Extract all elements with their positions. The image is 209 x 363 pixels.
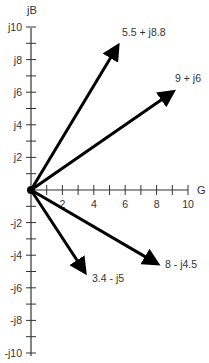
x-tick-label: 8	[154, 198, 160, 210]
vector-label: 3.4 - j5	[92, 272, 124, 284]
vector-label: 9 + j6	[175, 72, 201, 84]
x-tick-label: 4	[91, 198, 97, 210]
vector: 5.5 + j8.8	[31, 26, 166, 190]
y-tick-label: -j2	[10, 217, 22, 229]
y-tick-label: -j10	[4, 347, 22, 359]
vector-label: 8 - j4.5	[165, 258, 197, 270]
phasor-diagram: jB G j10j8j6j4j2-j2-j4-j6-j8-j10 246810 …	[0, 0, 209, 363]
x-tick-label: 6	[122, 198, 128, 210]
vector-arrow	[31, 190, 84, 272]
x-axis-tick-labels: 246810	[59, 198, 194, 210]
x-axis-title: G	[197, 184, 206, 196]
origin-point	[27, 186, 35, 194]
y-tick-label: -j6	[10, 282, 22, 294]
y-axis-title: jB	[26, 4, 37, 16]
vector-arrow	[31, 47, 117, 190]
y-tick-label: -j4	[10, 249, 22, 261]
y-tick-label: -j8	[10, 314, 22, 326]
y-tick-label: j8	[13, 54, 22, 66]
y-tick-label: j4	[13, 119, 22, 131]
x-tick-label: 10	[182, 198, 194, 210]
phasor-vectors: 5.5 + j8.89 + j68 - j4.53.4 - j5	[31, 26, 201, 284]
vector-arrow	[31, 92, 172, 190]
y-tick-label: j6	[13, 86, 22, 98]
y-tick-label: j2	[13, 151, 22, 163]
vector: 9 + j6	[31, 72, 201, 190]
vector-label: 5.5 + j8.8	[122, 26, 166, 38]
y-tick-label: j10	[7, 21, 22, 33]
y-axis-tick-labels: j10j8j6j4j2-j2-j4-j6-j8-j10	[4, 21, 22, 359]
